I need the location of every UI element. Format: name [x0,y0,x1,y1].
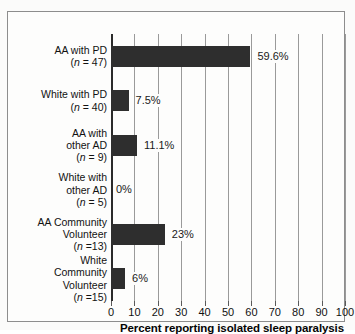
bar-value-label: 0% [115,183,133,196]
x-tick-label-20: 20 [152,306,164,318]
category-label: White withother AD(n = 5) [18,168,107,213]
category-label-line: Volunteer [63,228,107,240]
x-tick-label-10: 10 [128,306,140,318]
category-label-line: other AD [66,184,107,196]
bar-row: 59.6% [111,34,345,79]
sample-size-label: (n = 47) [71,56,108,68]
category-label-line: other AD [66,139,107,151]
bar-rows: 59.6%7.5%11.1%0%23%6% [111,34,345,301]
sample-size-label: (n = 9) [76,151,107,163]
category-label-line: Volunteer [63,279,107,291]
category-label-line: AA Community [38,216,107,228]
plot-area: 59.6%7.5%11.1%0%23%6% [111,34,345,301]
category-label-line: White with [59,171,107,183]
x-tick-label-60: 60 [245,306,257,318]
category-label-line: AA with PD [54,44,107,56]
category-label-line: AA with [72,127,107,139]
x-tick-label-0: 0 [108,306,114,318]
x-tick-label-70: 70 [269,306,281,318]
bar-value-label: 11.1% [143,139,175,152]
sample-size-label: (n = 40) [71,101,108,113]
sample-size-label: (n =13) [73,240,107,252]
bar-row: 0% [111,168,345,213]
bar [111,268,125,289]
x-tick-label-80: 80 [292,306,304,318]
bar [111,135,137,156]
bar-value-label: 23% [171,228,195,241]
bar [111,46,250,67]
category-label: AA CommunityVolunteer(n =13) [18,212,107,257]
x-axis-title: Percent reporting isolated sleep paralys… [111,322,353,334]
category-label: AA withother AD(n = 9) [18,123,107,168]
bar [111,90,129,111]
category-label-line: White with PD [41,88,107,100]
x-tick-label-90: 90 [315,306,327,318]
category-label: WhiteCommunityVolunteer(n =15) [18,257,107,302]
sample-size-label: (n =15) [73,291,107,303]
x-tick-label-40: 40 [198,306,210,318]
category-axis-labels: AA with PD(n = 47)White with PD(n = 40)A… [18,34,107,301]
bar-row: 7.5% [111,79,345,124]
bar [111,224,165,245]
category-label-line: Community [54,266,107,278]
x-tick-label-100: 100 [336,306,354,318]
bar-value-label: 59.6% [256,50,289,63]
gridline-100 [345,34,346,301]
bar-row: 11.1% [111,123,345,168]
category-label: White with PD(n = 40) [18,79,107,124]
figure-frame: 59.6%7.5%11.1%0%23%6% AA with PD(n = 47)… [7,11,345,322]
bar-value-label: 7.5% [135,94,162,107]
bar-value-label: 6% [131,272,149,285]
x-tick-label-50: 50 [222,306,234,318]
category-label: AA with PD(n = 47) [18,34,107,79]
x-tick-label-30: 30 [175,306,187,318]
x-axis-tick-labels: 0102030405060708090100 [111,306,345,320]
bar-row: 6% [111,257,345,302]
category-label-line: White [80,254,107,266]
sample-size-label: (n = 5) [76,196,107,208]
bar-row: 23% [111,212,345,257]
